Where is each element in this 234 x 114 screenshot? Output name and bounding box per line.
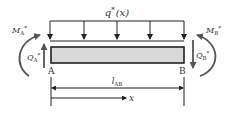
load-label: q*(x) bbox=[105, 6, 129, 18]
moment-a-label: MA* bbox=[11, 25, 27, 36]
shear-b-label: QB* bbox=[196, 50, 210, 61]
x-coordinate-label: x bbox=[129, 93, 134, 103]
node-b-label: B bbox=[179, 66, 186, 76]
distributed-load bbox=[50, 21, 184, 41]
beam-diagram: q*(x) A B QA* MA* QB* MB* lAB x bbox=[0, 0, 234, 114]
shear-a-label: QA* bbox=[27, 52, 41, 63]
node-a-label: A bbox=[47, 66, 55, 76]
beam bbox=[51, 47, 184, 63]
moment-b-label: MB* bbox=[205, 25, 221, 36]
length-label: lAB bbox=[112, 76, 123, 87]
